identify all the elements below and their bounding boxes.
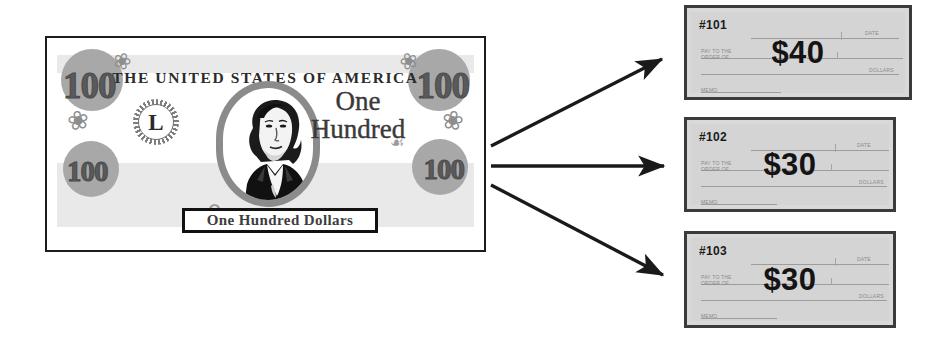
bill-face: ❀ ❀ ❀ ❀ ʕ ☙ 100 100 100 100 THE UNITED S… [57,47,474,241]
diagram-canvas: ❀ ❀ ❀ ❀ ʕ ☙ 100 100 100 100 THE UNITED S… [0,0,945,350]
leaf-flourish-icon: ❀ [440,105,466,134]
check-line [701,300,887,301]
check-face: PAY TO THE ORDER OF DATE DOLLARS MEMO #1… [691,12,905,93]
check-amount: $30 [691,262,889,298]
check-amount: $30 [691,147,889,183]
denomination-line-1: One [294,87,422,115]
check-face: PAY TO THE ORDER OF DATE DOLLARS MEMO #1… [691,238,889,321]
seal-inner: L [138,104,174,140]
bill-corner-numeral-bottom-right: 100 [424,155,465,184]
denomination-line-2: Hundred [294,115,422,143]
check-memo-label: MEMO [701,199,717,205]
bill-federal-reserve-seal: L [133,99,179,145]
check-number: #102 [699,130,727,144]
arrow-to-check-103 [491,185,663,275]
check-103[interactable]: PAY TO THE ORDER OF DATE DOLLARS MEMO #1… [684,231,896,328]
check-face: PAY TO THE ORDER OF DATE DOLLARS MEMO #1… [691,124,889,205]
check-memo-label: MEMO [701,87,717,93]
bill-corner-numeral-bottom-left: 100 [67,157,108,186]
seal-letter: L [148,111,163,134]
check-number: #101 [699,18,727,32]
hundred-dollar-bill: ❀ ❀ ❀ ❀ ʕ ☙ 100 100 100 100 THE UNITED S… [45,36,486,252]
bill-banner-text: One Hundred Dollars [207,212,354,229]
check-102[interactable]: PAY TO THE ORDER OF DATE DOLLARS MEMO #1… [684,117,896,212]
check-101[interactable]: PAY TO THE ORDER OF DATE DOLLARS MEMO #1… [684,5,912,100]
check-number: #103 [699,244,727,258]
check-line [701,74,899,75]
bill-denomination-words: One Hundred [294,87,422,144]
leaf-flourish-icon: ❀ [65,105,91,134]
bill-denomination-banner: One Hundred Dollars [182,208,378,233]
check-memo-label: MEMO [701,313,717,319]
check-line [701,186,887,187]
check-amount: $40 [691,35,905,71]
arrow-to-check-101 [491,59,662,146]
